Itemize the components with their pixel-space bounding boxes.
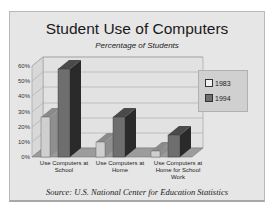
chart-panel: Student Use of Computers Percentage of S…: [9, 11, 265, 202]
x-label-home-school-work: Use Computers at Home for School Work: [148, 160, 208, 181]
source-note: Source: U.S. National Center for Educati…: [10, 187, 264, 197]
svg-text:50%: 50%: [18, 78, 31, 84]
x-label-home: Use Computers at Home: [90, 160, 150, 174]
x-label-school: Use Computers at School: [34, 160, 94, 174]
svg-text:30%: 30%: [18, 109, 31, 115]
svg-text:20%: 20%: [18, 124, 31, 130]
legend-item-1994: 1994: [205, 94, 231, 102]
svg-text:10%: 10%: [18, 139, 31, 145]
svg-text:60%: 60%: [18, 63, 31, 69]
legend: 1983 1994: [198, 70, 248, 112]
svg-text:40%: 40%: [18, 93, 31, 99]
y-axis: 0% 10% 20% 30% 40% 50% 60%: [18, 63, 31, 160]
legend-item-1983: 1983: [205, 79, 231, 87]
svg-text:0%: 0%: [21, 154, 30, 160]
swatch-1994-icon: [205, 94, 213, 102]
swatch-1983-icon: [205, 79, 213, 87]
